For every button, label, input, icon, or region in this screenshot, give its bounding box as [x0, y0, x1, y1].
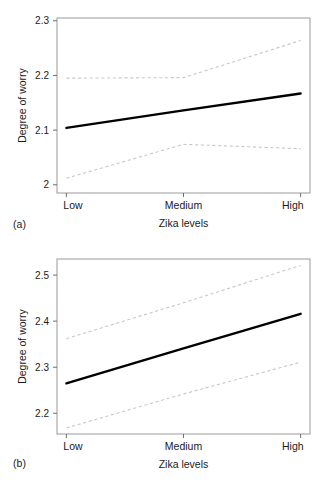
panel-a-tag: (a): [13, 218, 26, 230]
confidence-interval-line: [66, 40, 300, 78]
figure-container: 22.12.22.3LowMediumHighZika levelsDegree…: [0, 0, 334, 482]
x-tick-label: Medium: [165, 199, 203, 211]
y-tick-label: 2.2: [35, 408, 49, 419]
plot-frame: [57, 259, 310, 434]
chart-panel-a: 22.12.22.3LowMediumHighZika levelsDegree…: [0, 0, 334, 241]
y-tick-label: 2.1: [35, 125, 49, 136]
x-axis-title: Zika levels: [159, 458, 209, 470]
x-tick-label: High: [282, 199, 304, 211]
panel-a-plot: 22.12.22.3LowMediumHighZika levelsDegree…: [0, 0, 334, 241]
fit-line: [66, 93, 300, 127]
y-tick-label: 2.4: [35, 316, 49, 327]
x-tick-label: Low: [63, 199, 83, 211]
x-tick-label: Low: [63, 440, 83, 452]
x-tick-label: Medium: [165, 440, 203, 452]
confidence-interval-line: [66, 144, 300, 178]
y-axis-title: Degree of worry: [16, 67, 28, 142]
confidence-interval-line: [66, 265, 300, 338]
y-tick-label: 2.3: [35, 15, 49, 26]
y-axis-title: Degree of worry: [16, 308, 28, 383]
panel-b-tag: (b): [13, 457, 26, 469]
x-axis-title: Zika levels: [159, 217, 209, 229]
y-tick-label: 2.3: [35, 362, 49, 373]
chart-panel-b: 2.22.32.42.5LowMediumHighZika levelsDegr…: [0, 241, 334, 482]
plot-frame: [57, 18, 310, 193]
y-tick-label: 2.2: [35, 70, 49, 81]
x-tick-label: High: [282, 440, 304, 452]
panel-b-plot: 2.22.32.42.5LowMediumHighZika levelsDegr…: [0, 241, 334, 482]
fit-line: [66, 314, 300, 384]
y-tick-label: 2: [43, 179, 49, 190]
y-tick-label: 2.5: [35, 270, 49, 281]
